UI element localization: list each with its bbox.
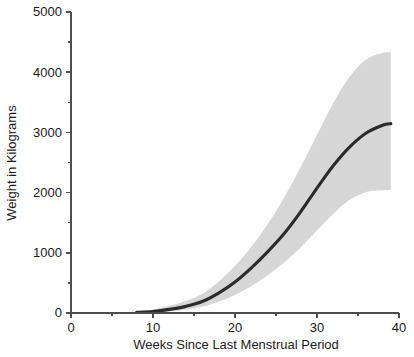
x-tick-label: 10 xyxy=(146,320,160,335)
y-axis-ticks: 010002000300040005000 xyxy=(33,4,71,320)
x-axis-title: Weeks Since Last Menstrual Period xyxy=(133,337,339,352)
y-tick-label: 2000 xyxy=(33,185,62,200)
confidence-band-area xyxy=(137,52,391,313)
y-tick-label: 1000 xyxy=(33,245,62,260)
x-tick-label: 30 xyxy=(310,320,324,335)
y-axis-title: Weight in Kilograms xyxy=(4,105,19,221)
y-tick-label: 0 xyxy=(55,305,62,320)
y-tick-label: 4000 xyxy=(33,65,62,80)
x-tick-label: 0 xyxy=(67,320,74,335)
chart-figure: 010002000300040005000 010203040 Weight i… xyxy=(0,0,414,357)
growth-chart-plot: 010002000300040005000 010203040 Weight i… xyxy=(0,0,414,357)
y-tick-label: 3000 xyxy=(33,125,62,140)
x-tick-label: 40 xyxy=(392,320,406,335)
confidence-band xyxy=(137,52,391,313)
y-tick-label: 5000 xyxy=(33,4,62,19)
x-tick-label: 20 xyxy=(228,320,242,335)
x-axis-ticks: 010203040 xyxy=(67,313,406,335)
